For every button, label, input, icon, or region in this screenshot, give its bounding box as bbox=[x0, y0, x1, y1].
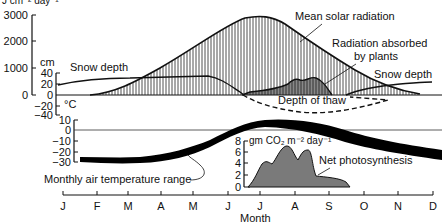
radiation-absorbed-label-2: by plants bbox=[354, 50, 399, 62]
cm-tick-minus40: −40 bbox=[34, 109, 53, 121]
month-may: M bbox=[188, 200, 197, 212]
month-feb: F bbox=[94, 200, 101, 212]
rad-tick-0: 0 bbox=[22, 89, 28, 101]
radiation-absorbed-label-1: Radiation absorbed bbox=[332, 37, 427, 49]
temp-tick-minus30: −30 bbox=[52, 156, 71, 168]
month-dec: D bbox=[429, 200, 437, 212]
month-apr: A bbox=[157, 200, 165, 212]
month-oct: O bbox=[360, 200, 369, 212]
month-aug: A bbox=[291, 200, 299, 212]
net-photosynthesis-leader bbox=[318, 168, 330, 175]
month-jul: J bbox=[257, 200, 263, 212]
month-nov: N bbox=[394, 200, 402, 212]
ps-tick-0: 0 bbox=[235, 181, 241, 193]
ps-tick-4: 4 bbox=[235, 157, 241, 169]
radiation-unit-label: J cm⁻² day⁻¹ bbox=[2, 0, 59, 6]
air-temperature-label: Monthly air temperature range bbox=[44, 173, 191, 185]
snow-depth-label-right: Snow depth bbox=[374, 68, 432, 80]
rad-tick-1000: 1000 bbox=[4, 62, 28, 74]
month-axis: J F M A M J J A S O N D Month bbox=[60, 191, 437, 224]
x-axis-title: Month bbox=[240, 212, 271, 224]
mean-solar-radiation-label: Mean solar radiation bbox=[295, 10, 395, 22]
radiation-axis: 3000 2000 1000 0 bbox=[4, 9, 36, 101]
month-jan: J bbox=[60, 200, 66, 212]
snow-depth-label-left: Snow depth bbox=[70, 61, 128, 73]
celsius-unit-label: °C bbox=[64, 98, 76, 110]
depth-of-thaw-label: Depth of thaw bbox=[278, 94, 346, 106]
ps-unit-label: gm CO₂ m⁻² day⁻¹ bbox=[249, 135, 332, 146]
ps-tick-2: 2 bbox=[235, 169, 241, 181]
mean-solar-leader bbox=[300, 24, 322, 42]
month-mar: M bbox=[123, 200, 132, 212]
net-photosynthesis-label: Net photosynthesis bbox=[319, 154, 413, 166]
net-photosynthesis-area bbox=[248, 146, 350, 187]
month-jun: J bbox=[225, 200, 231, 212]
rad-tick-3000: 3000 bbox=[4, 9, 28, 21]
arctic-seasonal-chart: J cm⁻² day⁻¹ 3000 2000 1000 0 cm 40 20 0… bbox=[0, 0, 442, 224]
month-sep: S bbox=[325, 200, 332, 212]
temperature-axis: 10 0 −10 −20 −30 bbox=[52, 114, 78, 168]
rad-tick-2000: 2000 bbox=[4, 35, 28, 47]
